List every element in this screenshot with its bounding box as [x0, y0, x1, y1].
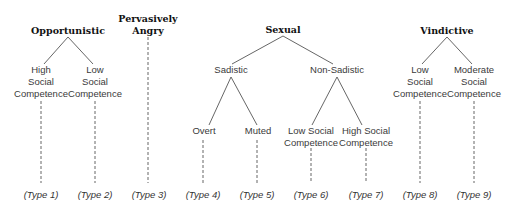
branch-line: [231, 77, 257, 125]
node-label-line: Competence: [284, 137, 338, 149]
type-label-7: (Type 7): [349, 189, 384, 200]
branch-line: [232, 36, 283, 64]
node-vindictive-moderate-social-competence: Moderate Social Competence: [447, 64, 501, 100]
node-label-line: Competence: [447, 88, 501, 100]
node-label-line: Low: [68, 64, 122, 76]
node-label-line: Competence: [393, 88, 447, 100]
node-label-line: High: [14, 64, 68, 76]
node-opportunistic: Opportunistic: [31, 25, 105, 37]
node-label: Muted: [245, 125, 271, 137]
node-non-sadistic-high-social-competence: High Social Competence: [339, 125, 393, 149]
branch-line: [209, 77, 231, 125]
branch-line: [44, 37, 68, 64]
node-opportunistic-high-social-competence: High Social Competence: [14, 64, 68, 100]
type-label-3: (Type 3): [132, 189, 167, 200]
type-label-1: (Type 1): [24, 189, 59, 200]
type-label-4: (Type 4): [186, 189, 221, 200]
node-label-line: Competence: [14, 88, 68, 100]
branch-line: [283, 36, 333, 64]
node-label-line: Competence: [339, 137, 393, 149]
branch-line: [68, 37, 93, 64]
node-non-sadistic: Non-Sadistic: [310, 64, 364, 76]
node-muted: Muted: [245, 125, 271, 137]
typology-diagram: Opportunistic High Social Competence Low…: [0, 0, 514, 211]
node-label-line: Social: [393, 76, 447, 88]
type-label-2: (Type 2): [78, 189, 113, 200]
node-label: Non-Sadistic: [310, 64, 364, 76]
branch-line: [447, 37, 472, 64]
node-label-line: Low: [393, 64, 447, 76]
node-vindictive: Vindictive: [420, 25, 473, 37]
node-sexual: Sexual: [265, 24, 300, 36]
branch-line: [337, 77, 362, 125]
node-label-line: Pervasively: [118, 13, 177, 25]
type-label-9: (Type 9): [457, 189, 492, 200]
node-label: Vindictive: [420, 25, 473, 37]
type-label-6: (Type 6): [294, 189, 329, 200]
node-vindictive-low-social-competence: Low Social Competence: [393, 64, 447, 100]
node-label: Sexual: [265, 24, 300, 36]
node-pervasively-angry: Pervasively Angry: [118, 13, 177, 37]
node-label: Sadistic: [214, 64, 247, 76]
node-label-line: Competence: [68, 88, 122, 100]
node-label-line: Social: [68, 76, 122, 88]
node-label-line: Low Social: [284, 125, 338, 137]
type-label-8: (Type 8): [403, 189, 438, 200]
node-opportunistic-low-social-competence: Low Social Competence: [68, 64, 122, 100]
branch-line: [422, 37, 447, 64]
node-non-sadistic-low-social-competence: Low Social Competence: [284, 125, 338, 149]
node-label-line: Social: [14, 76, 68, 88]
node-sadistic: Sadistic: [214, 64, 247, 76]
node-overt: Overt: [192, 125, 215, 137]
branch-line: [312, 77, 337, 125]
node-label-line: Angry: [118, 25, 177, 37]
node-label-line: Social: [447, 76, 501, 88]
node-label-line: High Social: [339, 125, 393, 137]
node-label-line: Moderate: [447, 64, 501, 76]
node-label: Overt: [192, 125, 215, 137]
node-label: Opportunistic: [31, 25, 105, 37]
type-label-5: (Type 5): [240, 189, 275, 200]
